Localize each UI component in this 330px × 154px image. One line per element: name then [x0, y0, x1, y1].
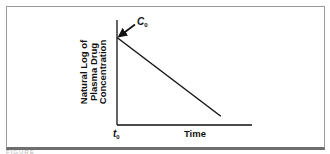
y-axis-label-line: Concentration — [97, 40, 108, 105]
y-axis-label: Natural Log ofPlasma DrugConcentration — [78, 39, 108, 104]
x-tick-label-subscript: 0 — [116, 134, 120, 140]
series-line — [117, 38, 221, 117]
x-axis-label: Time — [184, 128, 206, 139]
x-tick-label: t0 — [113, 128, 120, 140]
annotation-label: C0 — [137, 16, 148, 28]
annotation-arrow — [119, 25, 135, 37]
figure-caption: FIGURE — [6, 149, 35, 154]
annotation-label-subscript: 0 — [144, 22, 148, 28]
chart: Natural Log ofPlasma DrugConcentrationTi… — [0, 0, 330, 154]
